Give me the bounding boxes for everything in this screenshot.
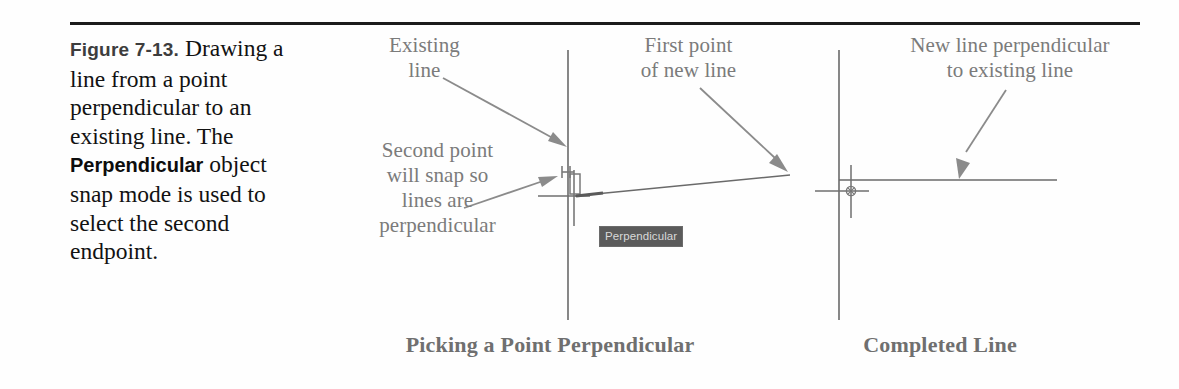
leader-existing-line [443, 78, 567, 147]
subcaption-picking-a-point-perpendicular: Picking a Point Perpendicular [380, 332, 720, 358]
figure-caption: Figure 7-13. Drawing a line from a point… [70, 34, 295, 266]
figure-number: Figure 7-13. [70, 39, 179, 60]
new-line-start-stub [576, 193, 603, 196]
subcaption-completed-line: Completed Line [790, 332, 1090, 358]
figure-top-rule [70, 22, 1140, 25]
annotation-second-point: Second point will snap so lines are perp… [330, 138, 545, 238]
annotation-first-point: First point of new line [596, 33, 781, 83]
annotation-new-line-perpendicular: New line perpendicular to existing line [860, 33, 1160, 83]
perpendicular-snap-marker [562, 166, 580, 194]
new-line-preview [575, 175, 790, 196]
annotation-existing-line: Existing line [352, 33, 497, 83]
perpendicular-osnap-tooltip: Perpendicular [599, 226, 683, 247]
leader-new-line-perpendicular [956, 90, 1006, 179]
leader-first-point [700, 88, 788, 172]
right-diagram-group [815, 50, 1057, 320]
figure-caption-bold-term: Perpendicular [70, 154, 203, 176]
node-snap-marker [846, 186, 855, 195]
